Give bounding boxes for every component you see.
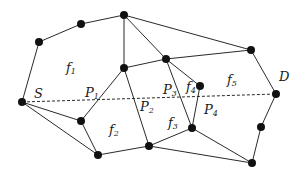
edge-n1-n2 [39,24,81,42]
vertex-n7 [196,82,204,90]
vertex-n4 [162,55,170,63]
label-point-p2: P2 [140,100,154,115]
edge-n14-n15 [252,127,261,163]
edges-group [22,15,276,163]
vertex-n6 [120,64,128,72]
edge-n12-n11 [98,146,149,155]
edge-n11-s [22,102,98,155]
planar-graph-diagram: S D f1 f2 f3 f4 f5 P1 P2 P3 P4 [0,0,304,177]
vertex-n5 [247,46,255,54]
edge-n5-d [251,50,276,94]
edge-n2-n3 [81,15,124,24]
vertex-n15 [248,159,256,167]
edge-n3-n5 [124,15,251,50]
vertex-n10 [77,117,85,125]
vertex-n14 [257,123,265,131]
label-face-f3: f3 [168,116,178,131]
label-face-f4: f4 [186,80,196,95]
label-face-f2: f2 [109,123,119,138]
label-point-p3: P3 [163,83,177,98]
vertex-s [18,98,26,106]
vertex-n3 [120,11,128,19]
edge-n10-n11 [81,121,98,155]
label-point-p1: P1 [85,86,99,101]
vertex-n12 [145,142,153,150]
edge-n3-n4 [124,15,166,59]
label-face-f5: f5 [227,73,237,88]
vertex-d [272,90,280,98]
label-point-p4: P4 [204,103,218,118]
edge-s-n10 [22,102,81,121]
vertex-n1 [35,38,43,46]
label-face-f1: f1 [66,61,76,76]
graph-canvas [0,0,304,177]
label-destination-d: D [279,70,289,83]
vertex-n2 [77,20,85,28]
vertex-n13 [188,124,196,132]
vertex-n11 [94,151,102,159]
edge-d-n14 [261,94,276,127]
label-source-s: S [34,87,43,100]
edge-n5-n4 [166,50,251,59]
edge-n4-n6 [124,59,166,68]
